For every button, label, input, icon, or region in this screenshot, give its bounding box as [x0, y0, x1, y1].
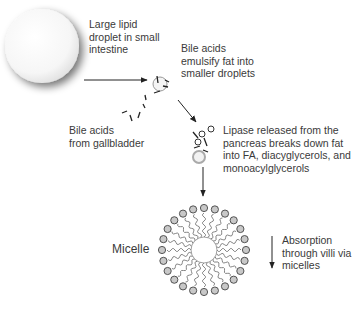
micelle — [158, 204, 249, 295]
lipase-products — [193, 126, 214, 163]
lipase-label: Lipase released from the pancreas breaks… — [223, 124, 351, 174]
large-droplet-label: Large lipid droplet in small intestine — [89, 18, 160, 56]
large-lipid-droplet — [5, 9, 79, 83]
emulsified-droplet — [153, 76, 169, 93]
micelle-label: Micelle — [112, 242, 149, 256]
bile-source-label: Bile acids from gallbladder — [69, 124, 144, 149]
arrow-to-lipase — [178, 100, 196, 122]
emulsify-label: Bile acids emulsify fat into smaller dro… — [181, 42, 255, 80]
bile-acid-fragments — [122, 95, 146, 121]
absorption-label: Absorption through villi via micelles — [282, 234, 351, 272]
